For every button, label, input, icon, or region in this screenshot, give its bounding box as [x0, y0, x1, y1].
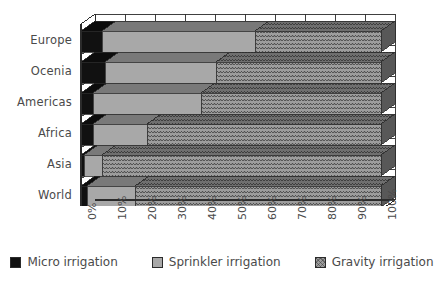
bar-row — [81, 52, 395, 83]
x-tick-20pct: 20% — [146, 196, 159, 220]
legend-label: Sprinkler irrigation — [169, 255, 281, 269]
bar-row — [81, 83, 395, 114]
x-tick-10pct: 10% — [116, 196, 129, 220]
legend-label: Micro irrigation — [27, 255, 117, 269]
legend-item-gravity[interactable]: Gravity irrigation — [315, 255, 434, 269]
x-tick-30pct: 30% — [176, 196, 189, 220]
x-tick-100pct: 100% — [386, 189, 399, 220]
category-axis: EuropeOceniaAmericasAfricaAsiaWorld — [0, 0, 72, 200]
legend-item-sprinkler[interactable]: Sprinkler irrigation — [152, 255, 281, 269]
category-label-africa: Africa — [38, 126, 72, 140]
legend-label: Gravity irrigation — [332, 255, 434, 269]
irrigation-stacked-bar-chart: EuropeOceniaAmericasAfricaAsiaWorld 0%10… — [0, 0, 444, 281]
legend-item-micro[interactable]: Micro irrigation — [10, 255, 117, 269]
chart-svg — [75, 14, 431, 206]
x-tick-60pct: 60% — [266, 196, 279, 220]
category-label-asia: Asia — [47, 157, 72, 171]
category-label-americas: Americas — [17, 95, 72, 109]
x-tick-0pct: 0% — [86, 203, 99, 220]
gravity-swatch-icon — [315, 257, 326, 268]
category-label-europe: Europe — [30, 33, 72, 47]
category-label-world: World — [38, 188, 72, 202]
x-tick-50pct: 50% — [236, 196, 249, 220]
micro-swatch-icon — [10, 257, 21, 268]
x-tick-90pct: 90% — [356, 196, 369, 220]
plot-area — [75, 14, 431, 206]
x-tick-40pct: 40% — [206, 196, 219, 220]
bar-row — [81, 114, 395, 145]
category-label-ocenia: Ocenia — [31, 64, 72, 78]
chart-legend: Micro irrigationSprinkler irrigationGrav… — [0, 248, 444, 276]
bar-row — [81, 21, 395, 52]
x-tick-70pct: 70% — [296, 196, 309, 220]
bars-group — [81, 21, 395, 206]
bar-row — [81, 145, 395, 176]
sprinkler-swatch-icon — [152, 257, 163, 268]
x-tick-80pct: 80% — [326, 196, 339, 220]
